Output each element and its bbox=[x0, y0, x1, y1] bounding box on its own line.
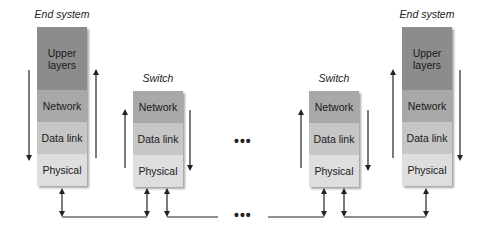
end-system-stack-right: Upper layers Network Data link Physical bbox=[402, 27, 452, 186]
end-system-label-right: End system bbox=[377, 8, 477, 20]
ellipsis-link: ••• bbox=[234, 207, 252, 223]
switch-label-2: Switch bbox=[284, 72, 384, 84]
layer-network: Network bbox=[133, 91, 183, 123]
layer-physical: Physical bbox=[309, 155, 359, 187]
layer-datalink: Data link bbox=[133, 123, 183, 155]
switch-stack-2: Network Data link Physical bbox=[309, 91, 359, 187]
layer-physical: Physical bbox=[402, 154, 452, 186]
layer-network: Network bbox=[37, 90, 87, 122]
switch-label-1: Switch bbox=[108, 72, 208, 84]
end-system-label-left: End system bbox=[12, 8, 112, 20]
layer-upper: Upper layers bbox=[37, 27, 87, 90]
layer-network: Network bbox=[402, 90, 452, 122]
layer-physical: Physical bbox=[37, 154, 87, 186]
end-system-stack-left: Upper layers Network Data link Physical bbox=[37, 27, 87, 186]
layer-network: Network bbox=[309, 91, 359, 123]
layer-datalink: Data link bbox=[309, 123, 359, 155]
switch-stack-1: Network Data link Physical bbox=[133, 91, 183, 187]
layer-physical: Physical bbox=[133, 155, 183, 187]
layer-datalink: Data link bbox=[402, 122, 452, 154]
layer-datalink: Data link bbox=[37, 122, 87, 154]
layer-upper: Upper layers bbox=[402, 27, 452, 90]
ellipsis-stack: ••• bbox=[234, 133, 252, 149]
